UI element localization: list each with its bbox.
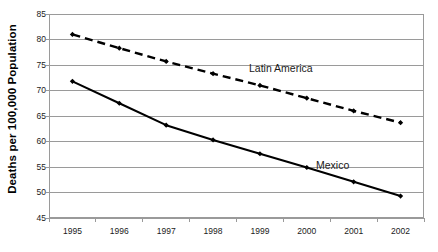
data-point xyxy=(117,46,122,51)
series-line-latin-america xyxy=(72,34,400,122)
line-chart: Deaths per 100,000 Population 8580757065… xyxy=(0,0,438,252)
data-point xyxy=(164,59,169,64)
x-tick-label: 1999 xyxy=(240,226,280,236)
data-point xyxy=(398,120,403,125)
x-tick-label: 2000 xyxy=(287,226,327,236)
data-point xyxy=(257,151,262,156)
series-label-mexico: Mexico xyxy=(316,159,349,171)
data-point xyxy=(351,108,356,113)
x-tick-label: 1995 xyxy=(52,226,92,236)
data-point xyxy=(257,83,262,88)
plot-canvas xyxy=(49,14,424,218)
series-label-latin-america: Latin America xyxy=(249,62,313,74)
x-tick-label: 1997 xyxy=(146,226,186,236)
x-tick-label: 1998 xyxy=(193,226,233,236)
data-point xyxy=(70,32,75,37)
data-point xyxy=(351,179,356,184)
x-tick-label: 2002 xyxy=(381,226,421,236)
x-tick-label: 2001 xyxy=(334,226,374,236)
data-point xyxy=(210,71,215,76)
data-point xyxy=(304,165,309,170)
data-point xyxy=(398,193,403,198)
data-point xyxy=(304,96,309,101)
series-line-mexico xyxy=(72,81,400,196)
x-tick-label: 1996 xyxy=(99,226,139,236)
